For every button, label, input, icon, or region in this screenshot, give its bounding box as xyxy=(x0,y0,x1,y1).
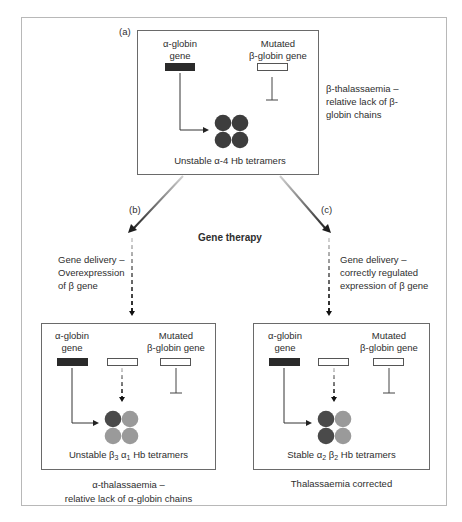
panel-c-beta-inhibition-icon xyxy=(383,368,395,393)
panel-b-alpha-to-tetramer-arrow xyxy=(72,368,99,426)
panel-c-alpha-to-tetramer-arrow xyxy=(284,368,312,426)
panel-a-tetramer-icon xyxy=(215,115,249,149)
panel-c-regulated-expression-dashed-arrow xyxy=(331,368,337,402)
panel-c-tetramer-icon xyxy=(318,411,352,445)
panel-a-alpha-to-tetramer-arrow xyxy=(180,73,209,133)
panel-a-beta-inhibition-icon xyxy=(266,77,278,100)
panel-b-tetramer-icon xyxy=(105,411,139,445)
panel-b-overexpression-dashed-arrow xyxy=(119,368,125,402)
panel-c-gene-delivery-dashed-arrow xyxy=(326,238,332,316)
arrow-to-panel-b xyxy=(128,176,183,233)
panel-b-beta-inhibition-icon xyxy=(170,368,182,393)
panel-b-gene-delivery-dashed-arrow xyxy=(129,238,135,316)
arrow-to-panel-c xyxy=(280,176,331,233)
diagram-graphics xyxy=(0,0,462,522)
